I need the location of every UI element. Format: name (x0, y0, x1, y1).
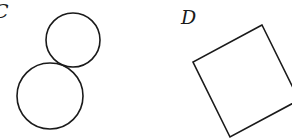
figures-canvas (0, 0, 292, 140)
small-circle (46, 13, 100, 67)
large-circle (17, 63, 83, 129)
figure-c (17, 13, 100, 129)
rotated-square (193, 25, 292, 137)
figure-d (193, 25, 292, 137)
